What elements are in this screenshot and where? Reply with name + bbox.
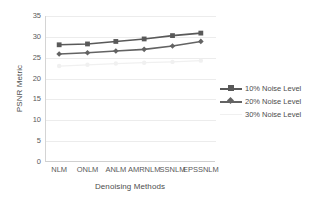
data-point-marker bbox=[142, 37, 147, 42]
legend-label: 10% Noise Level bbox=[245, 84, 301, 93]
data-point-marker bbox=[113, 39, 118, 44]
data-point-marker bbox=[56, 51, 62, 57]
data-point-marker bbox=[198, 31, 203, 36]
legend-label: 20% Noise Level bbox=[245, 97, 301, 106]
data-point-marker bbox=[199, 58, 203, 62]
legend-label: 30% Noise Level bbox=[245, 110, 301, 119]
data-point-marker bbox=[141, 47, 147, 53]
data-point-marker bbox=[113, 48, 119, 54]
y-tick-label: 20 bbox=[1, 75, 41, 82]
legend-marker-icon bbox=[220, 96, 242, 107]
data-point-marker bbox=[57, 64, 61, 68]
x-tick-label: NLM bbox=[51, 166, 67, 174]
series-layer bbox=[45, 16, 215, 162]
y-tick-label: 5 bbox=[1, 137, 41, 144]
data-point-marker bbox=[57, 42, 62, 47]
x-tick-label: EPSSNLM bbox=[183, 166, 219, 174]
data-point-marker bbox=[114, 61, 118, 65]
data-point-marker bbox=[142, 61, 146, 65]
data-point-marker bbox=[85, 42, 90, 47]
legend: 10% Noise Level20% Noise Level30% Noise … bbox=[220, 82, 312, 121]
legend-marker-icon bbox=[220, 109, 242, 120]
x-tick-label: ONLM bbox=[77, 166, 99, 174]
y-tick-label: 25 bbox=[1, 54, 41, 61]
data-point-marker bbox=[85, 63, 89, 67]
data-point-marker bbox=[170, 60, 174, 64]
series-line bbox=[59, 33, 201, 45]
y-tick-label: 10 bbox=[1, 116, 41, 123]
series-line bbox=[59, 61, 201, 66]
y-tick-label: 35 bbox=[1, 12, 41, 19]
data-point-marker bbox=[170, 43, 176, 49]
x-tick-label: SSNLM bbox=[160, 166, 186, 174]
x-axis-title: Denoising Methods bbox=[45, 182, 215, 191]
x-tick-label: AMRNLM bbox=[128, 166, 161, 174]
y-axis-tick-labels: 05101520253035 bbox=[0, 0, 45, 207]
legend-item[interactable]: 20% Noise Level bbox=[220, 95, 312, 108]
data-point-marker bbox=[85, 50, 91, 56]
series-line bbox=[59, 41, 201, 54]
y-tick-label: 0 bbox=[1, 158, 41, 165]
x-axis-tick-labels: NLMONLMANLMAMRNLMSSNLMEPSSNLM bbox=[45, 166, 215, 178]
legend-marker-icon bbox=[220, 83, 242, 94]
legend-item[interactable]: 10% Noise Level bbox=[220, 82, 312, 95]
data-point-marker bbox=[170, 33, 175, 38]
y-tick-label: 30 bbox=[1, 33, 41, 40]
data-point-marker bbox=[198, 39, 204, 45]
x-tick-label: ANLM bbox=[105, 166, 126, 174]
y-tick-label: 15 bbox=[1, 95, 41, 102]
psnr-line-chart: PSNR Metric 05101520253035 NLMONLMANLMAM… bbox=[0, 0, 312, 207]
legend-item[interactable]: 30% Noise Level bbox=[220, 108, 312, 121]
